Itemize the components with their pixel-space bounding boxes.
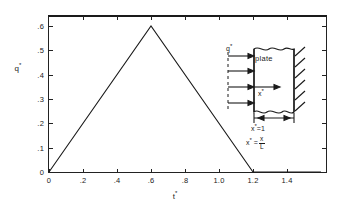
y-tick-label-0.6: .6 xyxy=(26,22,44,31)
inset-definition-fraction: xL xyxy=(259,136,265,150)
y-tick-label-0.3: .3 xyxy=(26,95,44,104)
x-tick-mark-top-1.0 xyxy=(219,16,220,20)
figure-canvas: 0 .2 .4 .6 .8 1.0 1.2 1.4 0 .1 .2 .3 .4 … xyxy=(0,0,340,211)
x-tick-label-1.4: 1.4 xyxy=(275,176,299,185)
x-tick-label-0.2: .2 xyxy=(71,176,95,185)
y-tick-label-0: 0 xyxy=(26,168,44,177)
y-tick-label-0.4: .4 xyxy=(26,71,44,80)
x-tick-label-1.2: 1.2 xyxy=(241,176,265,185)
inset-flux-label: q* xyxy=(226,43,232,52)
y-tick-mark-0.1 xyxy=(48,148,53,149)
y-tick-mark-0.2 xyxy=(48,123,53,124)
x-tick-mark-top-1.2 xyxy=(253,16,254,20)
y-tick-label-0.5: .5 xyxy=(26,46,44,55)
y-tick-mark-0 xyxy=(48,172,53,173)
y-axis-title: q* xyxy=(10,62,26,73)
x-tick-label-0.8: .8 xyxy=(173,176,197,185)
y-tick-label-0.2: .2 xyxy=(26,119,44,128)
y-tick-mark-0.3 xyxy=(48,99,53,100)
dimension-line xyxy=(254,113,294,123)
x-tick-mark-0.6 xyxy=(151,169,152,173)
x-tick-label-0: 0 xyxy=(37,176,61,185)
y-tick-label-0.1: .1 xyxy=(26,144,44,153)
y-tick-mark-0.5 xyxy=(48,50,53,51)
x-tick-mark-top-0.8 xyxy=(185,16,186,20)
inset-plate-schematic: q* plate x* x*=1 x* =xL xyxy=(218,44,326,154)
x-tick-label-1.0: 1.0 xyxy=(207,176,231,185)
y-tick-mark-0.4 xyxy=(48,75,53,76)
x-tick-mark-0.8 xyxy=(185,169,186,173)
x-tick-mark-top-1.4 xyxy=(287,16,288,20)
x-tick-mark-top-0.2 xyxy=(83,16,84,20)
inset-plate-label: plate xyxy=(255,54,273,63)
y-tick-mark-right-0.6 xyxy=(322,26,327,27)
x-tick-mark-0.2 xyxy=(83,169,84,173)
inset-definition-denominator: L xyxy=(259,144,265,151)
x-tick-mark-0.4 xyxy=(117,169,118,173)
x-tick-mark-top-0.6 xyxy=(151,16,152,20)
x-tick-mark-1.0 xyxy=(219,169,220,173)
inset-coordinate-label: x* xyxy=(258,88,264,97)
flux-arrows xyxy=(228,54,254,106)
x-tick-mark-top-0.4 xyxy=(117,16,118,20)
y-tick-mark-0.6 xyxy=(48,26,53,27)
x-tick-label-0.6: .6 xyxy=(139,176,163,185)
x-tick-label-0.4: .4 xyxy=(105,176,129,185)
wall-hatching xyxy=(295,47,305,111)
x-tick-mark-1.4 xyxy=(287,169,288,173)
inset-definition-prefix: x* = xyxy=(246,139,258,146)
x-axis-title: t* xyxy=(160,190,190,201)
inset-dimension-label: x*=1 xyxy=(251,123,265,132)
inset-definition: x* =xL xyxy=(246,136,265,150)
x-tick-mark-1.2 xyxy=(253,169,254,173)
